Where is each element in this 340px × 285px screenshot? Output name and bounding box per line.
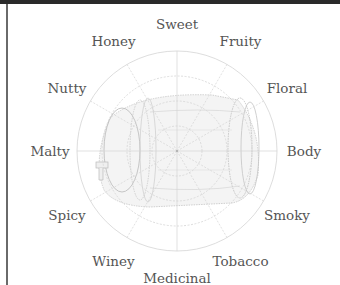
center-point [176,150,178,152]
axis-label-smoky: Smoky [264,207,310,223]
axis-label-spicy: Spicy [48,207,86,223]
flavor-wheel-chart: SweetFruityFloralBodySmokyTobaccoMedicin… [0,0,340,285]
axis-label-nutty: Nutty [48,80,87,96]
axis-label-honey: Honey [91,33,136,49]
axis-label-medicinal: Medicinal [143,270,211,285]
axis-label-malty: Malty [30,143,70,159]
axis-label-tobacco: Tobacco [212,253,268,269]
barrel-tap [96,162,108,168]
axis-label-sweet: Sweet [156,16,199,32]
radar-grid [77,51,277,251]
barrel-tap-spout [99,168,103,180]
axis-label-fruity: Fruity [220,33,262,49]
axis-label-body: Body [287,143,322,159]
axis-label-winey: Winey [92,253,135,269]
axis-label-floral: Floral [267,80,308,96]
